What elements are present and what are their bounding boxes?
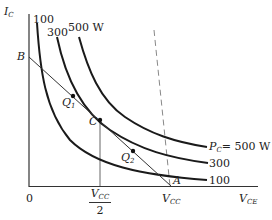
power-hyperbola-diagram: IC VCE 0 VCC 2 VCC B A C Q1 Q2 100 300 5…	[0, 0, 272, 220]
curve-300-top-label: 300	[47, 27, 68, 38]
curve-500-right-label: PC= 500 W	[209, 141, 270, 154]
y-axis-label: IC	[4, 6, 14, 19]
curve-300-right-label: 300	[209, 158, 230, 169]
diagram-canvas	[0, 0, 272, 220]
curve-100-right-label: 100	[209, 175, 230, 186]
curve-500-top-label: 500 W	[68, 22, 104, 33]
point-a-label: A	[173, 175, 181, 186]
half-vcc-label: VCC 2	[89, 188, 111, 216]
curve-300w	[57, 37, 208, 163]
point-c	[98, 118, 102, 122]
curve-100-top-label: 100	[33, 14, 54, 25]
x-axis-label: VCE	[239, 193, 257, 206]
point-b-label: B	[17, 51, 25, 62]
dashed-limit-line	[154, 30, 170, 186]
vcc-label: VCC	[162, 193, 181, 206]
curve-500w	[79, 37, 207, 147]
point-q2-label: Q2	[121, 152, 135, 165]
point-c-label: C	[89, 116, 97, 127]
point-q1-label: Q1	[62, 97, 76, 110]
origin-label: 0	[26, 193, 33, 204]
